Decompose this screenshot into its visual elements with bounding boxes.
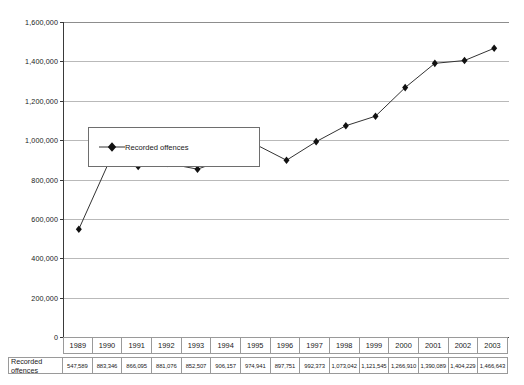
x-axis-year-cell: 1990 <box>93 337 123 354</box>
legend-marker-icon <box>99 141 125 153</box>
y-tick-label: 600,000 <box>0 214 58 223</box>
y-tick-label: 1,400,000 <box>0 57 58 66</box>
y-tick-label: 1,200,000 <box>0 96 58 105</box>
data-table-cell: 1,466,643 <box>478 357 508 374</box>
y-tick-label: 200,000 <box>0 293 58 302</box>
x-axis-year-cell: 1994 <box>211 337 241 354</box>
data-table-cell: 866,095 <box>122 357 152 374</box>
data-table-cell: 852,507 <box>182 357 212 374</box>
x-axis-year-row: 1989199019911992199319941995199619971998… <box>63 337 508 354</box>
x-axis-year-cell: 2000 <box>389 337 419 354</box>
legend: Recorded offences <box>88 127 260 167</box>
data-table-cell: 1,390,089 <box>419 357 449 374</box>
x-axis-year-cell: 1999 <box>360 337 390 354</box>
data-table-cell: 1,121,545 <box>360 357 390 374</box>
data-table-cell: 1,404,229 <box>449 357 479 374</box>
data-point <box>284 156 290 164</box>
data-point <box>343 122 349 130</box>
y-tick-label: 1,600,000 <box>0 18 58 27</box>
data-table-cell: 992,373 <box>300 357 330 374</box>
data-table-row: Recorded offences547,589883,346866,09588… <box>8 357 508 374</box>
data-table-cell: 881,076 <box>152 357 182 374</box>
x-axis-year-cell: 2003 <box>478 337 508 354</box>
y-tick-label: 1,000,000 <box>0 136 58 145</box>
series-recorded-offences <box>64 22 509 337</box>
data-table-cell: 1,073,042 <box>330 357 360 374</box>
legend-label: Recorded offences <box>125 143 189 152</box>
x-axis-year-cell: 2002 <box>449 337 479 354</box>
x-axis-year-cell: 1998 <box>330 337 360 354</box>
data-point <box>491 44 497 52</box>
x-axis-year-cell: 1997 <box>300 337 330 354</box>
data-point <box>76 225 82 233</box>
y-tick-label: 400,000 <box>0 254 58 263</box>
x-axis-year-cell: 1991 <box>122 337 152 354</box>
data-point <box>313 138 319 146</box>
data-point <box>432 60 438 68</box>
data-point <box>462 57 468 65</box>
x-axis-year-cell: 1989 <box>63 337 93 354</box>
data-table-cell: 547,589 <box>63 357 93 374</box>
data-table-cell: 1,266,910 <box>389 357 419 374</box>
x-axis-year-cell: 1995 <box>241 337 271 354</box>
plot-area: Recorded offences <box>63 22 509 338</box>
x-axis-year-cell: 1996 <box>271 337 301 354</box>
data-table-cell: 974,941 <box>241 357 271 374</box>
x-axis-year-cell: 1993 <box>182 337 212 354</box>
x-axis-year-cell: 2001 <box>419 337 449 354</box>
y-tick-label: 800,000 <box>0 175 58 184</box>
data-table-cell: 883,346 <box>93 357 123 374</box>
data-table-cell: 906,157 <box>211 357 241 374</box>
data-table-row-label: Recorded offences <box>8 357 63 374</box>
x-axis-year-cell: 1992 <box>152 337 182 354</box>
y-tick-label: 0 <box>0 333 58 342</box>
data-table-cell: 897,751 <box>271 357 301 374</box>
chart-figure: 0200,000400,000600,000800,0001,000,0001,… <box>0 0 524 385</box>
